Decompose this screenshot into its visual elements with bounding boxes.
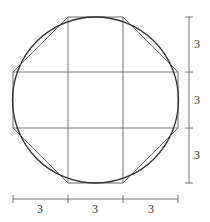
dimension-label: 3 bbox=[148, 202, 154, 216]
octagon-circle-diagram: 333333 bbox=[0, 0, 210, 222]
vertical-dimension bbox=[185, 17, 193, 183]
dimension-label: 3 bbox=[194, 37, 200, 51]
dimension-labels: 333333 bbox=[37, 37, 200, 216]
dimension-label: 3 bbox=[92, 202, 98, 216]
grid-lines bbox=[13, 17, 178, 183]
dimension-label: 3 bbox=[194, 93, 200, 107]
dimension-label: 3 bbox=[194, 148, 200, 162]
inscribed-circle bbox=[13, 17, 179, 183]
dimension-label: 3 bbox=[37, 202, 43, 216]
octagon bbox=[13, 17, 178, 183]
